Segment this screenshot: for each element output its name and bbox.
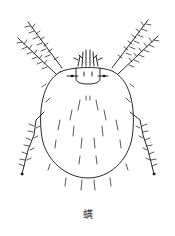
leg-front-right-1 [112, 20, 148, 68]
mite-illustration [0, 0, 175, 236]
figure-caption: 螨 [0, 206, 175, 221]
mite-head-plate [76, 68, 100, 84]
leg-front-left-2 [18, 38, 56, 74]
